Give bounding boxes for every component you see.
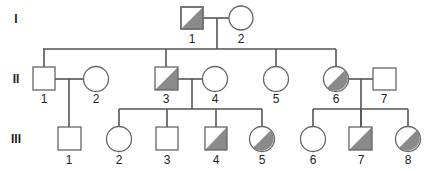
individual-iii-2: [107, 127, 132, 152]
individual-iii-8: [396, 127, 421, 152]
label-i-2: 2: [238, 32, 245, 46]
individual-ii-2: [84, 67, 109, 92]
individual-ii-4: [203, 67, 228, 92]
generation-label-i: I: [14, 12, 17, 26]
individual-ii-7: [373, 68, 396, 90]
label-ii-1: 1: [41, 92, 48, 106]
pedigree-diagram: I II III 1 2 1 2 3 4 5: [0, 0, 434, 171]
generation-label-ii: II: [13, 72, 20, 86]
individual-ii-5: [264, 67, 289, 92]
label-ii-4: 4: [212, 92, 219, 106]
label-iii-4: 4: [213, 153, 220, 167]
label-ii-7: 7: [381, 92, 388, 106]
label-iii-8: 8: [405, 153, 412, 167]
label-iii-5: 5: [259, 153, 266, 167]
label-iii-1: 1: [66, 153, 73, 167]
label-ii-5: 5: [273, 92, 280, 106]
label-ii-6: 6: [333, 92, 340, 106]
individual-i-1: [181, 7, 203, 29]
individual-iii-7: [349, 127, 372, 150]
individual-iii-1: [58, 127, 81, 150]
individual-i-2: [229, 6, 253, 30]
individual-ii-3: [155, 67, 178, 90]
label-iii-3: 3: [164, 153, 171, 167]
label-iii-7: 7: [358, 153, 365, 167]
generation-label-iii: III: [11, 132, 21, 146]
individual-iii-5: [250, 127, 275, 152]
label-ii-3: 3: [163, 92, 170, 106]
individual-iii-6: [301, 127, 326, 152]
label-ii-2: 2: [93, 92, 100, 106]
label-iii-2: 2: [116, 153, 123, 167]
label-iii-6: 6: [310, 153, 317, 167]
individual-iii-3: [156, 127, 178, 150]
individual-ii-1: [33, 67, 55, 90]
individual-iii-4: [205, 127, 227, 150]
individual-ii-6: [324, 67, 349, 92]
label-i-1: 1: [189, 32, 196, 46]
